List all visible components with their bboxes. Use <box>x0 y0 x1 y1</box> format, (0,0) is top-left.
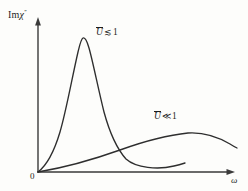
origin-label: 0 <box>30 172 35 181</box>
overbar-icon <box>154 111 161 112</box>
curve1-value: 1 <box>113 27 118 37</box>
curve2-symbol-u: U <box>154 112 161 122</box>
overbar-icon <box>96 27 103 28</box>
x-axis-label: ω <box>231 176 237 185</box>
curve2-value: 1 <box>172 111 177 121</box>
curve-sharp-resonance <box>38 38 185 172</box>
y-axis-arrowhead <box>35 17 41 26</box>
figure-container: Imχ′′ ω 0 U≲1 U≪1 <box>0 0 248 191</box>
curve2-relation: ≪ <box>161 111 172 121</box>
curve-label-broad-relaxation: U≪1 <box>154 112 177 122</box>
curve1-symbol-u: U <box>96 28 103 38</box>
curve1-relation: ≲ <box>103 27 113 37</box>
plot-canvas <box>0 0 248 191</box>
y-axis-label-superscript: ′′ <box>24 8 26 16</box>
curve-broad-relaxation <box>38 133 237 172</box>
curve-label-sharp-resonance: U≲1 <box>96 28 118 38</box>
y-axis-label: Imχ′′ <box>8 9 27 20</box>
y-axis-label-prefix: Im <box>8 9 20 20</box>
